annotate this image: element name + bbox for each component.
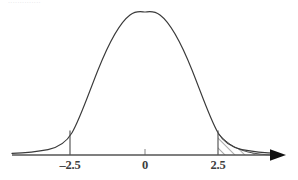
x-tick-label-negative-2-5: –2.5 bbox=[59, 158, 80, 173]
x-tick-label-zero: 0 bbox=[142, 158, 148, 173]
figure-canvas: .............. –2.5 0 2.5 bbox=[0, 0, 298, 180]
x-axis-arrowhead-icon bbox=[270, 149, 286, 160]
x-tick-label-positive-2-5: 2.5 bbox=[210, 158, 225, 173]
bell-curve bbox=[12, 12, 278, 154]
tail-hatch-fill bbox=[214, 128, 278, 158]
normal-distribution-chart bbox=[0, 0, 298, 180]
right-tail-shaded-region bbox=[214, 128, 278, 158]
